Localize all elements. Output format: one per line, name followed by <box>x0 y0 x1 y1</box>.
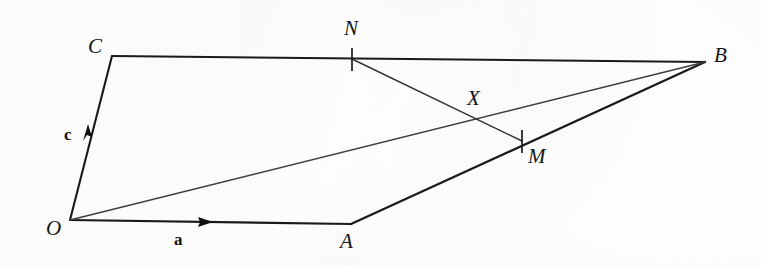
cevian-lines <box>70 59 705 220</box>
vector-label-c: c <box>64 126 72 143</box>
point-label-N: N <box>344 18 358 39</box>
geometry-figure: O A B C N M X a c <box>0 0 761 267</box>
segment-CB <box>112 56 705 62</box>
arrowhead-vector-a <box>198 217 213 227</box>
polygon-outline <box>70 56 705 224</box>
point-label-X: X <box>467 88 480 109</box>
point-label-M: M <box>528 146 546 167</box>
vertex-label-A: A <box>340 231 353 252</box>
segment-OB <box>70 62 705 220</box>
figure-canvas <box>0 0 761 267</box>
segment-OC <box>70 56 112 220</box>
segment-AB <box>351 62 705 224</box>
vector-label-a: a <box>174 231 183 248</box>
vertex-label-B: B <box>714 45 727 66</box>
vertex-label-C: C <box>88 36 102 57</box>
vertex-label-O: O <box>46 218 61 239</box>
